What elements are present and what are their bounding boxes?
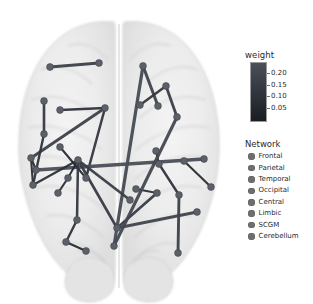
connectome-node	[154, 190, 161, 197]
legend-color-swatch	[248, 222, 255, 229]
connectome-node	[208, 184, 215, 191]
connectome-node	[163, 83, 170, 90]
legend-item-label: SCGM	[259, 222, 280, 229]
weight-colorbar	[250, 62, 267, 122]
colorbar-gradient	[251, 63, 266, 121]
connectome-edge	[77, 160, 78, 220]
connectome-node	[156, 161, 163, 168]
connectome-node	[41, 98, 48, 105]
legend-color-swatch	[248, 153, 255, 160]
legend-item-label: Parietal	[259, 165, 285, 172]
connectome-figure: weight 0.200.150.100.05 Network FrontalP…	[0, 0, 313, 304]
left-cerebellum	[65, 257, 114, 302]
connectome-node	[57, 107, 64, 114]
legend-item[interactable]: Temporal	[248, 174, 313, 185]
connectome-node	[47, 64, 54, 71]
connectome-node	[133, 186, 140, 193]
connectome-node	[201, 156, 208, 163]
connectome-node	[30, 182, 37, 189]
legend-panel: weight 0.200.150.100.05 Network FrontalP…	[238, 0, 313, 304]
legend-item-label: Cerebellum	[259, 233, 299, 240]
connectome-node	[102, 105, 109, 112]
legend-color-swatch	[248, 199, 255, 206]
legend-item[interactable]: Central	[248, 197, 313, 208]
legend-item[interactable]: Occipital	[248, 185, 313, 196]
colorbar-tickmark	[267, 73, 270, 74]
legend-color-swatch	[248, 233, 255, 240]
legend-color-swatch	[248, 165, 255, 172]
legend-item-label: Central	[259, 199, 285, 206]
connectome-node	[63, 239, 70, 246]
colorbar-tick: 0.05	[271, 104, 287, 112]
colorbar-tick: 0.20	[271, 69, 287, 77]
connectome-node	[111, 243, 118, 250]
connectome-node	[33, 167, 40, 174]
network-legend-list: FrontalParietalTemporalOccipitalCentralL…	[248, 151, 313, 242]
connectome-node	[96, 60, 103, 67]
connectome-node	[74, 217, 81, 224]
legend-item-label: Temporal	[259, 176, 291, 183]
legend-title: Network	[245, 139, 281, 149]
brain-network-svg	[0, 0, 238, 304]
legend-item[interactable]: Cerebellum	[248, 231, 313, 242]
colorbar-tickmark	[267, 85, 270, 86]
legend-item[interactable]: Frontal	[248, 151, 313, 162]
right-cerebellum	[124, 257, 173, 302]
colorbar-title: weight	[245, 50, 274, 60]
connectome-node	[140, 63, 147, 70]
connectome-node	[137, 102, 144, 109]
legend-item-label: Frontal	[259, 153, 283, 160]
connectome-node	[155, 103, 162, 110]
colorbar-tickmark	[267, 96, 270, 97]
connectome-node	[83, 248, 90, 255]
connectome-node	[75, 157, 82, 164]
legend-item[interactable]: SCGM	[248, 219, 313, 230]
connectome-node	[28, 155, 35, 162]
legend-color-swatch	[248, 210, 255, 217]
legend-item-label: Limbic	[259, 210, 282, 217]
connectome-node	[153, 148, 160, 155]
connectome-node	[57, 144, 64, 151]
legend-item[interactable]: Limbic	[248, 208, 313, 219]
connectome-node	[174, 114, 181, 121]
brain-plot-panel	[0, 0, 238, 304]
connectome-node	[127, 197, 134, 204]
legend-color-swatch	[248, 188, 255, 195]
colorbar-tickmark	[267, 108, 270, 109]
colorbar-tick: 0.15	[271, 81, 287, 89]
connectome-node	[83, 175, 90, 182]
colorbar-tick-labels: 0.200.150.100.05	[267, 62, 311, 120]
connectome-node	[181, 158, 188, 165]
legend-item-label: Occipital	[259, 187, 290, 194]
connectome-edge	[178, 195, 179, 253]
connectome-node	[176, 192, 183, 199]
connectome-node	[175, 250, 182, 257]
connectome-node	[65, 175, 72, 182]
connectome-node	[55, 190, 62, 197]
connectome-node	[41, 131, 48, 138]
connectome-node	[114, 225, 121, 232]
right-hemisphere	[123, 22, 219, 287]
connectome-node	[194, 209, 201, 216]
legend-color-swatch	[248, 176, 255, 183]
legend-item[interactable]: Parietal	[248, 162, 313, 173]
colorbar-tick: 0.10	[271, 92, 287, 100]
